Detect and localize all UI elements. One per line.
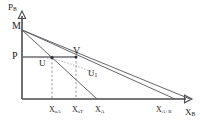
- x-tick-label-xA: XA: [95, 106, 104, 114]
- budget-line-steep: [22, 30, 97, 99]
- point-label-U1: U1: [88, 69, 97, 78]
- economics-budget-diagram: PB XB M P U V U1 XaA XaT XA XA+B: [0, 0, 200, 124]
- point-label-U1-sub: 1: [95, 72, 98, 78]
- point-label-P: P: [12, 51, 18, 61]
- point-label-P-text: P: [12, 50, 18, 61]
- budget-line-shallow: [22, 30, 190, 99]
- x-axis-label-sub: B: [192, 111, 196, 117]
- x-tick-label-xaA: XaA: [49, 106, 61, 114]
- x-tick-xAB-sub: A+B: [162, 109, 172, 114]
- x-tick-label-xAB: XA+B: [156, 106, 171, 114]
- x-tick-xA-sub: A: [101, 109, 105, 114]
- point-label-U-text: U: [39, 58, 46, 68]
- point-label-V: V: [73, 46, 80, 56]
- x-tick-xaT-sub: aT: [78, 109, 83, 114]
- point-label-M: M: [12, 21, 21, 31]
- x-tick-label-xaT: XaT: [72, 106, 83, 114]
- point-label-U: U: [39, 59, 46, 68]
- point-marker-U: [51, 56, 54, 59]
- x-tick-xaA-sub: aA: [55, 109, 61, 114]
- point-label-V-text: V: [73, 45, 80, 56]
- y-axis-label: PB: [8, 3, 17, 12]
- y-axis-label-sub: B: [13, 6, 17, 12]
- point-label-M-text: M: [12, 20, 21, 31]
- x-axis-label: XB: [185, 108, 195, 117]
